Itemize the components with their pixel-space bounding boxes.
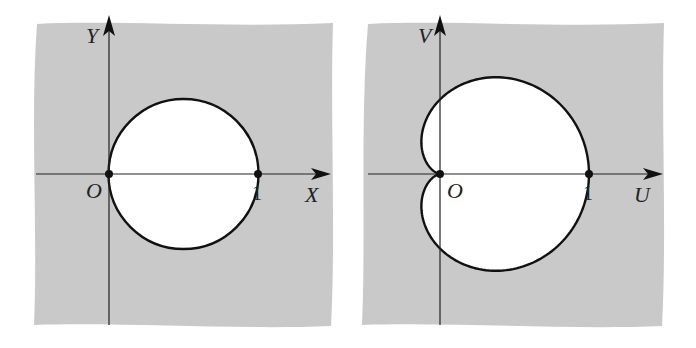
right-origin-label: O [447, 178, 463, 203]
left-unit-label: 1 [252, 182, 262, 204]
left-origin-point [105, 170, 113, 178]
left-panel: Y X O 1 [34, 15, 333, 327]
right-unit-label: 1 [583, 182, 593, 204]
left-x-axis-label: X [304, 182, 320, 207]
right-panel: V U O 1 [362, 15, 664, 327]
left-origin-label: O [86, 178, 102, 203]
right-unit-point [585, 170, 593, 178]
diagram-canvas: Y X O 1 V U O 1 [0, 0, 696, 348]
right-origin-point [436, 170, 444, 178]
left-unit-point [254, 170, 262, 178]
right-u-axis-label: U [634, 182, 652, 207]
